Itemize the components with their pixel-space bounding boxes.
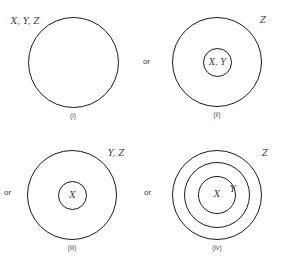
label-iv-inner-set: X — [198, 189, 236, 199]
set-diagram-figure: X, Y, Z (i) or Z X, Y (ii) or Y, Z X (ii… — [0, 0, 286, 267]
label-iv-outer-set: Z — [262, 148, 268, 158]
caption-iv: (iv) — [197, 244, 237, 251]
circle-i-outer — [28, 17, 119, 108]
label-i-outer-set: X, Y, Z — [11, 16, 40, 26]
caption-ii: (ii) — [197, 111, 237, 118]
label-ii-inner-set: X, Y — [203, 57, 232, 67]
label-ii-outer-set: Z — [260, 15, 266, 25]
panel-i: X, Y, Z (i) — [0, 0, 143, 133]
caption-iii: (iii) — [52, 244, 92, 251]
panel-iii: Y, Z X (iii) — [0, 134, 143, 267]
label-iii-inner-set: X — [58, 190, 87, 200]
panel-iv: Z Y X (iv) — [143, 134, 286, 267]
panel-ii: Z X, Y (ii) — [143, 0, 286, 133]
label-iii-outer-set: Y, Z — [108, 148, 125, 158]
caption-i: (i) — [53, 112, 93, 119]
